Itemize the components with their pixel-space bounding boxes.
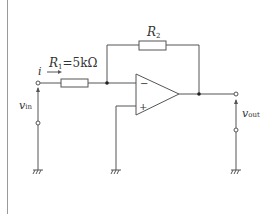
ground-icon [33,170,43,174]
terminal-vout-top [234,92,238,96]
noninverting-wire [116,106,136,170]
terminal-vin-top [36,81,40,85]
ground-icon [111,170,121,174]
r2-label: R2 [146,25,161,40]
terminal-vout-bottom [234,128,238,132]
current-label: i [38,65,42,78]
terminal-vin-bottom [36,121,40,125]
opamp-plus-sign: + [139,101,147,112]
resistor-r2 [139,41,166,50]
vout-arrow-head [234,99,238,104]
junction-dot-inverting [105,81,109,85]
vin-arrow-head [36,87,40,92]
vout-label: vout [242,107,260,120]
junction-dot-output [197,92,201,96]
resistor-r1 [61,79,88,87]
vin-label: vin [19,99,32,112]
circuit-diagram: − + R2 R1=5kΩ i vin vout [0,0,273,214]
ground-icon [231,170,241,174]
opamp-minus-sign: − [140,78,148,89]
r1-label: R1=5kΩ [48,56,97,71]
